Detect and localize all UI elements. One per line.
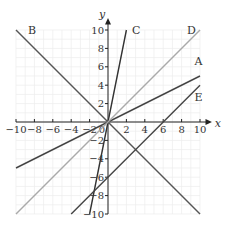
x-tick-label: 2 — [123, 124, 129, 135]
y-axis-label: y — [98, 8, 106, 21]
y-tick-label: 10 — [91, 25, 104, 36]
x-axis-label: x — [215, 117, 222, 130]
label-a: A — [193, 55, 203, 68]
x-tick-label: 10 — [194, 124, 207, 135]
y-tick-label: 6 — [98, 61, 104, 72]
y-tick-label: 2 — [98, 98, 104, 109]
x-tick-label: −4 — [64, 124, 79, 135]
y-tick-label: 8 — [98, 43, 104, 54]
label-e: E — [194, 91, 202, 104]
x-tick-label: 6 — [160, 124, 166, 135]
x-tick-label: −6 — [45, 124, 60, 135]
x-tick-label: −10 — [5, 124, 26, 135]
label-c: C — [132, 24, 140, 37]
line-graph: −10−8−6−4−2246810−10−8−6−4−22468100xy AB… — [0, 0, 232, 236]
x-tick-label: 4 — [142, 124, 148, 135]
x-tick-label: 8 — [178, 124, 184, 135]
y-tick-label: −10 — [83, 209, 104, 220]
series-labels: ABCDE — [28, 24, 204, 104]
y-tick-label: −8 — [89, 190, 104, 201]
graph-canvas: −10−8−6−4−2246810−10−8−6−4−22468100xy AB… — [0, 0, 232, 236]
x-axis-arrow-icon — [206, 119, 212, 125]
y-tick-label: 4 — [98, 80, 104, 91]
label-b: B — [28, 24, 36, 37]
x-tick-label: −8 — [27, 124, 42, 135]
y-axis-arrow-icon — [105, 18, 111, 24]
y-tick-label: −2 — [89, 135, 104, 146]
label-d: D — [187, 24, 196, 37]
